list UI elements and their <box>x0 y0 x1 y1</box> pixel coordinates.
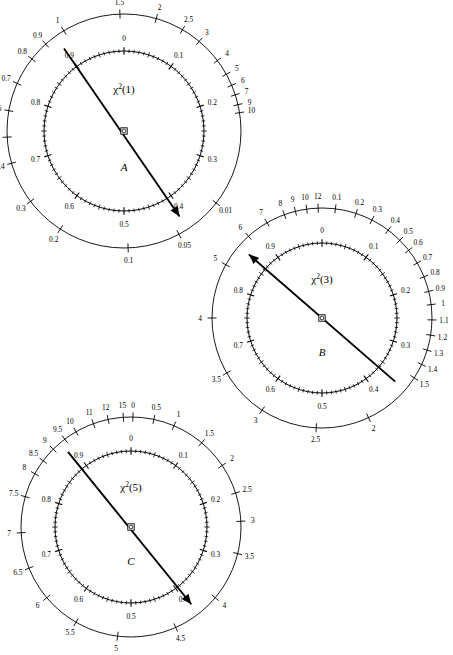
outer-tick-label: 0.6 <box>0 104 2 113</box>
outer-tick-label: 1.5 <box>205 429 215 438</box>
outer-tick-label: 0.7 <box>423 253 433 262</box>
outer-tick-label: 0.1 <box>124 256 134 265</box>
outer-tick-label: 0.5 <box>404 227 414 236</box>
outer-tick-label: 9.5 <box>53 425 63 434</box>
outer-tick-label: 8.5 <box>29 449 39 458</box>
outer-tick-label: 5 <box>114 644 118 653</box>
outer-tick-label: 6 <box>36 601 40 610</box>
outer-tick-label: 6 <box>241 76 245 85</box>
outer-tick-label: 10 <box>301 193 309 202</box>
outer-tick-label: 1.1 <box>439 316 449 325</box>
outer-tick-label: 5 <box>213 254 217 263</box>
inner-tick-label: 0 <box>320 226 324 235</box>
outer-tick-label: 4.5 <box>176 634 186 643</box>
dial-title: χ2(5) <box>119 480 142 494</box>
outer-tick-label: 0.8 <box>430 268 440 277</box>
inner-tick-label: 0.2 <box>401 286 411 295</box>
outer-tick-label: 0.2 <box>49 235 59 244</box>
inner-tick-label: 0 <box>122 34 126 43</box>
outer-tick-label: 3.5 <box>245 552 255 561</box>
outer-tick-label: 9 <box>248 98 252 107</box>
outer-tick-label: 1.5 <box>420 380 430 389</box>
outer-tick-label: 0 <box>131 401 135 410</box>
inner-tick-label: 0.1 <box>369 242 379 251</box>
outer-tick-label: 1 <box>177 410 181 419</box>
outer-tick-label: 0.2 <box>355 198 365 207</box>
outer-tick-label: 0.9 <box>436 284 446 293</box>
inner-tick-label: 0.8 <box>31 98 41 107</box>
outer-tick-label: 1 <box>441 299 445 308</box>
outer-tick-label: 2 <box>158 3 162 12</box>
inner-tick-label: 0.3 <box>208 155 218 164</box>
inner-tick-label: 0.9 <box>74 451 84 460</box>
outer-tick-label: 2 <box>372 424 376 433</box>
dial-title-text: χ2(5) <box>119 480 142 494</box>
inner-tick-label: 0.3 <box>211 550 221 559</box>
outer-tick-label: 4 <box>223 601 227 610</box>
inner-tick-label: 0.2 <box>211 495 221 504</box>
inner-tick-label: 0.6 <box>65 202 75 211</box>
inner-tick-label: 0 <box>129 434 133 443</box>
inner-tick-label: 0.5 <box>126 612 136 621</box>
outer-tick-label: 0.5 <box>152 403 162 412</box>
inner-tick-label: 0.1 <box>179 451 189 460</box>
inner-tick-label: 0.3 <box>401 341 411 350</box>
outer-tick-label: 0.3 <box>373 205 383 214</box>
outer-tick-label: 11 <box>86 408 93 417</box>
outer-tick-label: 6 <box>239 223 243 232</box>
outer-tick-label: 0.7 <box>2 74 12 83</box>
panel-label: A <box>120 161 128 173</box>
outer-tick-label: 15 <box>119 401 127 410</box>
inner-tick-label: 0.4 <box>369 385 379 394</box>
dial-c: 00.511.522.533.544.555.566.577.588.599.5… <box>0 391 267 655</box>
outer-tick-label: 12 <box>314 192 322 201</box>
outer-tick-label: 10 <box>248 106 256 115</box>
inner-tick-label: 0.7 <box>234 341 244 350</box>
outer-tick-label: 8 <box>22 463 26 472</box>
outer-tick-label: 5.5 <box>65 628 75 637</box>
inner-tick-label: 0.6 <box>266 385 276 394</box>
inner-tick-label: 0.8 <box>42 495 52 504</box>
inner-tick-label: 0.5 <box>119 220 129 229</box>
outer-tick-label: 7 <box>7 529 11 538</box>
outer-tick-label: 1.2 <box>438 333 448 342</box>
inner-tick-label: 0.8 <box>234 286 244 295</box>
inner-tick-label: 0.6 <box>74 595 84 604</box>
outer-tick-label: 1.5 <box>115 0 125 7</box>
outer-tick-label: 9 <box>291 195 295 204</box>
dial-title: χ2(3) <box>310 272 333 286</box>
inner-tick-label: 0.5 <box>317 402 327 411</box>
outer-tick-label: 10 <box>66 417 74 426</box>
inner-tick-label: 0.2 <box>208 98 218 107</box>
outer-tick-label: 2 <box>230 454 234 463</box>
outer-tick-label: 3 <box>205 28 209 37</box>
outer-tick-label: 1.3 <box>434 349 444 358</box>
outer-tick-label: 7 <box>259 208 263 217</box>
dial-title-text: χ2(3) <box>310 272 333 286</box>
dial-title-text: χ2(1) <box>112 82 135 96</box>
dial-title: χ2(1) <box>112 82 135 96</box>
inner-tick-label: 0.7 <box>42 550 52 559</box>
outer-tick-label: 8 <box>278 199 282 208</box>
outer-tick-label: 4 <box>225 49 229 58</box>
outer-tick-label: 7.5 <box>9 489 19 498</box>
outer-tick-label: 5 <box>235 64 239 73</box>
outer-tick-label: 0.4 <box>391 216 401 225</box>
outer-tick-label: 0.8 <box>18 47 28 56</box>
outer-tick-label: 0.6 <box>414 238 424 247</box>
inner-tick-label: 0.7 <box>31 155 41 164</box>
outer-tick-label: 3.5 <box>212 375 222 384</box>
outer-tick-label: 2.5 <box>184 15 194 24</box>
outer-tick-label: 0.1 <box>332 193 342 202</box>
outer-tick-label: 4 <box>198 314 202 323</box>
outer-tick-label: 1.4 <box>428 365 438 374</box>
outer-tick-label: 0.4 <box>0 162 5 171</box>
outer-tick-label: 0.9 <box>33 31 43 40</box>
outer-tick-label: 0.3 <box>16 204 26 213</box>
panel-label: B <box>319 346 326 358</box>
outer-tick-label: 6.5 <box>13 568 23 577</box>
outer-tick-label: 1 <box>56 16 60 25</box>
outer-tick-label: 9 <box>43 436 47 445</box>
inner-tick-label: 0.1 <box>174 51 184 60</box>
